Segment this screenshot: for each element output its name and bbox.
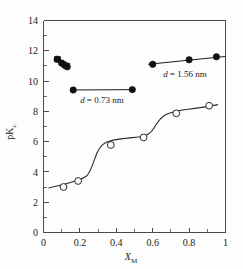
series-d-073 [70,86,136,93]
data-point-open-3 [107,142,114,149]
data-point-open-4 [140,134,147,141]
y-tick-label-0: 0 [33,227,38,238]
data-point-open-5 [173,110,180,117]
y-tick-label-4: 4 [33,167,38,178]
data-point-open-2 [75,178,82,185]
x-tick-label-04: 0.4 [110,237,123,248]
y-axis-tick-labels: 0 2 4 6 8 10 12 14 [28,15,38,238]
x-tick-label-06: 0.6 [146,237,159,248]
y-tick-label-6: 6 [33,136,38,147]
y-tick-label-12: 12 [28,45,38,56]
cluster-marker-6 [63,63,70,69]
y-axis-title: pKc [4,124,18,139]
series-d-156 [148,54,225,68]
y-axis-title-main: pK [4,127,15,140]
x-axis-title: XM [124,251,138,265]
svg-text:pKc: pKc [4,124,18,139]
svg-text:d= 1.56 nm: d= 1.56 nm [163,69,206,79]
svg-text:d= 0.73 nm: d= 0.73 nm [80,95,123,105]
annot-d156-text: = 1.56 nm [170,69,207,79]
data-point-d156-3 [213,54,219,60]
y-tick-label-10: 10 [28,76,38,87]
data-point-d156-1 [150,61,156,67]
data-point-d156-2 [186,57,192,63]
data-point-open-6 [206,102,213,109]
data-point-d073-2 [129,86,135,92]
cluster-marker-5 [55,57,61,63]
annot-d156-symbol: d [163,69,168,79]
x-tick-label-08: 0.8 [183,237,196,248]
scatter-plot: 0 2 4 6 8 10 12 14 0 0.2 0.4 0.6 0.8 1 p… [0,0,243,269]
marker-cluster-group [54,56,71,70]
annot-d073-text: = 0.73 nm [87,95,124,105]
x-axis-title-sub: M [131,257,138,265]
data-point-d073-1 [70,87,76,93]
chart-figure: 0 2 4 6 8 10 12 14 0 0.2 0.4 0.6 0.8 1 p… [0,0,243,269]
x-tick-label-1: 1 [223,237,228,248]
sigmoid-fit-curve [49,105,219,188]
annot-d073-symbol: d [80,95,85,105]
annotation-d-156: d= 1.56 nm [163,69,206,79]
x-tick-label-02: 0.2 [74,237,87,248]
open-circle-series [60,102,212,190]
annotation-d-073: d= 0.73 nm [80,95,123,105]
y-tick-label-8: 8 [33,106,38,117]
x-axis-tick-labels: 0 0.2 0.4 0.6 0.8 1 [41,237,228,248]
y-axis-title-sub: c [10,124,18,127]
y-tick-label-2: 2 [33,197,38,208]
axes-frame [44,21,226,233]
svg-text:XM: XM [124,251,138,265]
data-point-open-1 [60,184,67,191]
y-tick-label-14: 14 [28,15,38,26]
x-tick-label-0: 0 [41,237,46,248]
